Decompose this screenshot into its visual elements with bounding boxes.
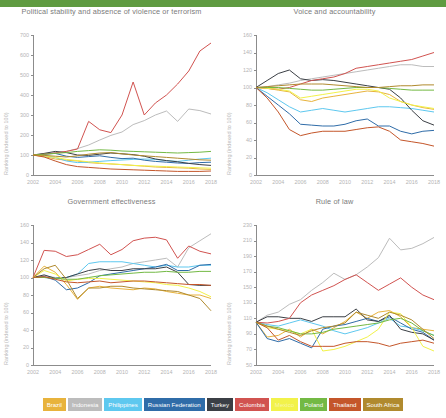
y-axis-tick-label: 140: [7, 239, 29, 245]
y-axis-tick-label: 230: [230, 222, 252, 228]
legend-item[interactable]: Colombia: [235, 398, 269, 411]
series-line: [256, 70, 434, 125]
y-axis-tick-label: 80: [230, 102, 252, 108]
legend-item[interactable]: Russian Federation: [144, 398, 205, 411]
y-axis-tick-label: 200: [7, 132, 29, 138]
x-axis-tick-label: 2016: [177, 369, 201, 375]
x-axis-tick-label: 2002: [244, 369, 268, 375]
y-axis-tick-label: 400: [7, 92, 29, 98]
x-axis-tick-label: 2006: [66, 179, 90, 185]
y-axis-tick: [31, 175, 33, 176]
series-line: [33, 267, 211, 285]
y-axis-tick-label: 40: [7, 327, 29, 333]
y-axis-tick-label: 210: [230, 237, 252, 243]
y-axis-tick: [31, 365, 33, 366]
y-axis-tick-label: 90: [230, 330, 252, 336]
x-axis-tick-label: 2006: [289, 369, 313, 375]
x-axis-tick-label: 2018: [422, 179, 446, 185]
x-axis-tick-label: 2014: [378, 179, 402, 185]
legend: BrazilIndonesiaPhilippinesRussian Federa…: [0, 394, 446, 414]
y-axis-title: Ranking (indexed to 100): [226, 302, 232, 365]
x-axis-tick-label: 2008: [88, 369, 112, 375]
y-axis-tick-label: 80: [7, 292, 29, 298]
series-group: [256, 35, 434, 175]
y-axis-tick-label: 60: [230, 119, 252, 125]
y-axis-tick-label: 300: [7, 112, 29, 118]
y-axis-tick-label: 170: [230, 268, 252, 274]
y-axis-tick-label: 100: [7, 152, 29, 158]
x-axis-tick-label: 2012: [355, 369, 379, 375]
x-axis-tick-label: 2008: [88, 179, 112, 185]
legend-item[interactable]: Poland: [300, 398, 327, 411]
y-axis-tick-label: 130: [230, 299, 252, 305]
y-axis-tick: [254, 365, 256, 366]
y-axis-tick-label: 20: [7, 344, 29, 350]
chart-rule-of-law: Rule of law 5070901101301501701902102302…: [223, 197, 446, 387]
series-line: [256, 311, 434, 337]
x-axis-tick-label: 2016: [400, 369, 424, 375]
y-axis-tick-label: 100: [230, 84, 252, 90]
chart-title: Political stability and absence of viole…: [0, 7, 223, 16]
x-axis-tick-label: 2008: [311, 179, 335, 185]
y-axis-tick-label: 150: [230, 284, 252, 290]
accent-top-bar: [0, 0, 446, 7]
x-axis-tick-label: 2010: [110, 179, 134, 185]
y-axis-tick: [254, 175, 256, 176]
x-axis-tick-label: 2016: [400, 179, 424, 185]
y-axis-title: Ranking (indexed to 100): [226, 112, 232, 175]
x-axis-tick-label: 2012: [132, 179, 156, 185]
series-group: [33, 225, 211, 365]
series-group: [33, 35, 211, 175]
series-line: [256, 65, 434, 88]
x-axis-tick-label: 2002: [21, 369, 45, 375]
legend-item[interactable]: Brazil: [43, 398, 66, 411]
x-axis-tick-label: 2010: [333, 179, 357, 185]
x-axis-line: [33, 175, 211, 176]
y-axis-tick-label: 190: [230, 253, 252, 259]
chart-government-effectiveness: Government effectiveness 020406080100120…: [0, 197, 223, 387]
y-axis-title: Ranking (indexed to 100): [3, 302, 9, 365]
plot-area: 0204060801001201401602002200420062008201…: [33, 225, 211, 365]
plot-area: 0100200300400500600700200220042006200820…: [33, 35, 211, 175]
y-axis-tick-label: 700: [7, 32, 29, 38]
y-axis-tick-label: 40: [230, 137, 252, 143]
x-axis-tick-label: 2010: [333, 369, 357, 375]
legend-item[interactable]: Turkey: [207, 398, 233, 411]
y-axis-tick-label: 20: [230, 154, 252, 160]
legend-item[interactable]: Indonesia: [68, 398, 102, 411]
x-axis-tick-label: 2012: [355, 179, 379, 185]
x-axis-line: [33, 365, 211, 366]
y-axis-tick-label: 120: [230, 67, 252, 73]
legend-item[interactable]: Thailand: [329, 398, 360, 411]
y-axis-tick-label: 50: [230, 362, 252, 368]
y-axis-tick-label: 0: [7, 172, 29, 178]
legend-item[interactable]: South Africa: [363, 398, 404, 411]
y-axis-tick-label: 60: [7, 309, 29, 315]
chart-title: Voice and accountability: [223, 7, 446, 16]
y-axis-tick-label: 120: [7, 257, 29, 263]
chart-voice-and-accountability: Voice and accountability 020406080100120…: [223, 7, 446, 197]
x-axis-tick-label: 2006: [289, 179, 313, 185]
x-axis-tick-label: 2014: [378, 369, 402, 375]
chart-title: Rule of law: [223, 197, 446, 206]
legend-item[interactable]: Philippines: [104, 398, 141, 411]
series-line: [33, 43, 211, 155]
x-axis-tick-label: 2004: [43, 369, 67, 375]
series-line: [256, 88, 434, 147]
x-axis-tick-label: 2004: [266, 369, 290, 375]
series-group: [256, 225, 434, 365]
series-line: [256, 275, 434, 323]
y-axis-tick-label: 600: [7, 52, 29, 58]
legend-item[interactable]: Mexico: [271, 398, 298, 411]
x-axis-tick-label: 2004: [43, 179, 67, 185]
x-axis-tick-label: 2012: [132, 369, 156, 375]
chart-title: Government effectiveness: [0, 197, 223, 206]
x-axis-tick-label: 2002: [244, 179, 268, 185]
y-axis-tick-label: 0: [7, 362, 29, 368]
x-axis-tick-label: 2018: [199, 179, 223, 185]
y-axis-tick-label: 140: [230, 49, 252, 55]
y-axis-tick-label: 160: [230, 32, 252, 38]
y-axis-tick-label: 160: [7, 222, 29, 228]
chart-political-stability: Political stability and absence of viole…: [0, 7, 223, 197]
x-axis-tick-label: 2016: [177, 179, 201, 185]
